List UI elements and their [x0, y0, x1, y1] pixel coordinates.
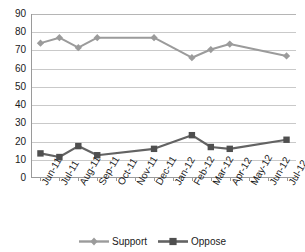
data-point-oppose	[75, 143, 81, 149]
chart-legend: Support Oppose	[0, 232, 305, 250]
data-point-oppose	[151, 146, 157, 152]
data-point-oppose	[189, 132, 195, 138]
data-point-support	[226, 40, 233, 47]
data-point-support	[283, 52, 290, 59]
legend-label-support: Support	[112, 236, 147, 247]
data-point-oppose	[208, 144, 214, 150]
legend-item-oppose: Oppose	[158, 236, 226, 247]
legend-label-oppose: Oppose	[191, 236, 226, 247]
data-point-oppose	[37, 150, 43, 156]
data-point-oppose	[283, 137, 289, 143]
data-point-support	[94, 34, 101, 41]
line-chart: 9080706050403020100 Jun-11Jul-11Aug-11Se…	[0, 0, 305, 252]
legend-item-support: Support	[79, 236, 147, 247]
data-point-oppose	[227, 146, 233, 152]
legend-swatch-oppose	[158, 236, 188, 247]
data-point-support	[37, 40, 44, 47]
x-axis-labels: Jun-11Jul-11Aug-11Sep-11Oct-11Nov-11Dec-…	[31, 178, 296, 240]
data-point-support	[75, 44, 82, 51]
legend-swatch-support	[79, 236, 109, 247]
data-point-support	[150, 34, 157, 41]
data-point-support	[188, 54, 195, 61]
data-point-support	[56, 34, 63, 41]
data-point-support	[207, 46, 214, 53]
